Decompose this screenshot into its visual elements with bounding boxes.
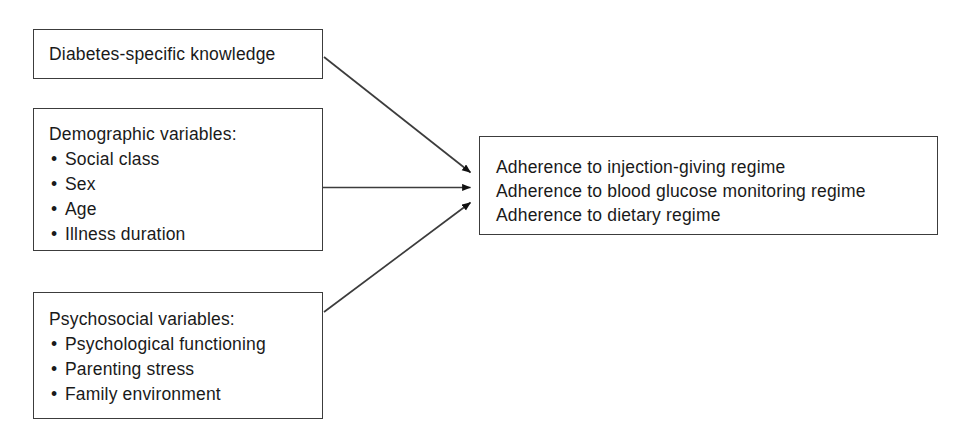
outcome-line: Adherence to dietary regime bbox=[496, 203, 927, 227]
node-adherence-outcomes: Adherence to injection-giving regime Adh… bbox=[479, 136, 938, 235]
list-item-label: Social class bbox=[65, 149, 160, 169]
outcome-line: Adherence to blood glucose monitoring re… bbox=[496, 179, 927, 203]
node-content: Psychosocial variables: • Psychological … bbox=[49, 307, 312, 407]
node-psychosocial-variables: Psychosocial variables: • Psychological … bbox=[33, 292, 323, 419]
list-item: • Illness duration bbox=[49, 222, 312, 247]
bullet-dot-icon: • bbox=[51, 147, 57, 172]
node-demographic-variables: Demographic variables: • Social class • … bbox=[33, 108, 323, 251]
list-item-label: Parenting stress bbox=[65, 359, 194, 379]
list-item-label: Sex bbox=[65, 174, 96, 194]
bullet-dot-icon: • bbox=[51, 382, 57, 407]
bullet-dot-icon: • bbox=[51, 332, 57, 357]
list-item: • Social class bbox=[49, 147, 312, 172]
bullet-list: • Psychological functioning • Parenting … bbox=[49, 332, 312, 407]
node-diabetes-specific-knowledge: Diabetes-specific knowledge bbox=[33, 29, 323, 79]
list-item-label: Family environment bbox=[65, 384, 221, 404]
node-title: Demographic variables: bbox=[49, 122, 312, 147]
node-content: Adherence to injection-giving regime Adh… bbox=[496, 155, 927, 227]
list-item: • Family environment bbox=[49, 382, 312, 407]
list-item: • Parenting stress bbox=[49, 357, 312, 382]
bullet-dot-icon: • bbox=[51, 172, 57, 197]
node-title: Psychosocial variables: bbox=[49, 307, 312, 332]
edge-knowledge-adherence bbox=[324, 57, 471, 173]
list-item: • Psychological functioning bbox=[49, 332, 312, 357]
list-item: • Age bbox=[49, 197, 312, 222]
node-content: Demographic variables: • Social class • … bbox=[49, 122, 312, 247]
bullet-dot-icon: • bbox=[51, 222, 57, 247]
list-item-label: Age bbox=[65, 199, 97, 219]
list-item-label: Illness duration bbox=[65, 224, 186, 244]
diagram-canvas: Diabetes-specific knowledge Demographic … bbox=[0, 0, 963, 448]
bullet-dot-icon: • bbox=[51, 197, 57, 222]
bullet-dot-icon: • bbox=[51, 357, 57, 382]
bullet-list: • Social class • Sex • Age • Illness dur… bbox=[49, 147, 312, 247]
list-item-label: Psychological functioning bbox=[65, 334, 266, 354]
list-item: • Sex bbox=[49, 172, 312, 197]
edge-psychosocial-adherence bbox=[324, 203, 471, 313]
outcome-line: Adherence to injection-giving regime bbox=[496, 155, 927, 179]
node-title: Diabetes-specific knowledge bbox=[49, 42, 312, 67]
node-content: Diabetes-specific knowledge bbox=[49, 42, 312, 67]
